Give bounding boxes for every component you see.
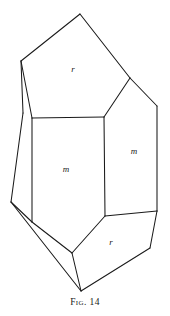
face-label-m-right: m [131, 146, 138, 156]
edge-apex-to-right-shoulder [80, 14, 130, 78]
edge-front-face-bottom [32, 222, 72, 253]
crystal-drawing: rmmr [0, 0, 170, 316]
edge-apex-to-left-shoulder [21, 14, 80, 61]
figure-caption: Fig. 14 [0, 297, 170, 307]
edge-bottom-right-to-apex [81, 248, 150, 291]
edge-right-face-bottom [105, 211, 157, 216]
edge-right-bottom-bevel [150, 211, 157, 248]
face-label-r-top: r [71, 64, 75, 74]
edge-outer-left-vertical [11, 113, 23, 202]
edge-left-bottom-to-front-bottom [11, 202, 32, 222]
edge-right-shoulder-to-face-top [104, 78, 130, 117]
edge-front-face-top [32, 117, 104, 118]
face-label-r-bottom: r [109, 237, 113, 247]
edge-front-face-center-vertical [104, 117, 105, 216]
figure-panel: rmmr Fig. 14 [0, 0, 170, 316]
crystal-face-labels: rmmr [63, 64, 138, 247]
face-label-m-left: m [63, 164, 70, 174]
edge-left-bottom-to-apex [11, 202, 81, 291]
edge-right-shoulder-to-right-edge [130, 78, 157, 106]
edge-front-bottom-to-right-face [72, 216, 105, 253]
